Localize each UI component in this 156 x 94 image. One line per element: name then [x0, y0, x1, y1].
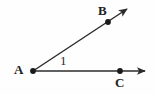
- vertex-label-c: C: [115, 76, 124, 89]
- angle-label-1: 1: [60, 54, 67, 67]
- point-c-dot: [117, 68, 123, 74]
- vertex-label-a: A: [14, 63, 23, 76]
- ray-ab: [33, 9, 127, 71]
- vertex-label-b: B: [98, 4, 107, 17]
- point-b-dot: [105, 19, 111, 25]
- angle-diagram: A B C 1: [0, 0, 156, 94]
- geometry-canvas: [0, 0, 156, 94]
- point-a-dot: [30, 68, 36, 74]
